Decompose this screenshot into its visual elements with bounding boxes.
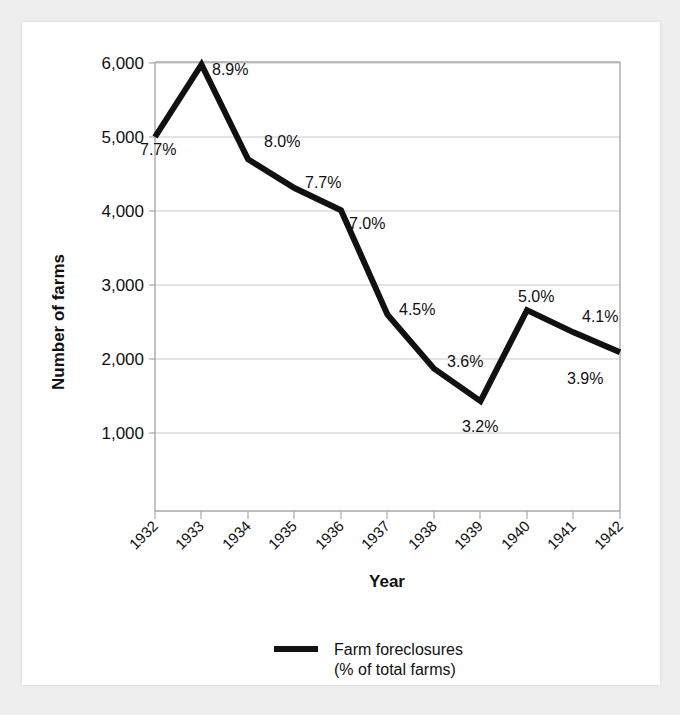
point-label-1933: 8.9%: [212, 61, 248, 78]
page-root: 6,000 5,000 4,000 3,000 2,000 1,000 Numb…: [0, 0, 680, 715]
y-tick-label-4000: 4,000: [101, 202, 144, 221]
y-tick-labels: 6,000 5,000 4,000 3,000 2,000 1,000: [101, 54, 144, 443]
y-tick-label-1000: 1,000: [101, 424, 144, 443]
legend-label-line2: (% of total farms): [334, 661, 456, 678]
x-axis-title: Year: [369, 572, 405, 591]
y-tick-label-5000: 5,000: [101, 128, 144, 147]
y-tick-marks: [149, 63, 155, 433]
point-label-1937: 4.5%: [399, 301, 435, 318]
line-chart: 6,000 5,000 4,000 3,000 2,000 1,000 Numb…: [22, 22, 660, 685]
y-tick-label-6000: 6,000: [101, 54, 144, 73]
y-tick-label-3000: 3,000: [101, 276, 144, 295]
point-label-1942: 3.9%: [567, 370, 603, 387]
point-label-1935: 7.7%: [305, 174, 341, 191]
point-label-1938: 3.6%: [447, 353, 483, 370]
point-label-1940: 5.0%: [518, 288, 554, 305]
point-label-1941: 4.1%: [582, 308, 618, 325]
point-label-1934: 8.0%: [264, 133, 300, 150]
point-label-1939: 3.2%: [462, 418, 498, 435]
y-axis-title: Number of farms: [49, 254, 68, 390]
y-tick-label-2000: 2,000: [101, 350, 144, 369]
chart-legend: Farm foreclosures (% of total farms): [274, 641, 463, 678]
chart-card: 6,000 5,000 4,000 3,000 2,000 1,000 Numb…: [22, 22, 660, 685]
legend-label-line1: Farm foreclosures: [334, 641, 463, 658]
point-label-1932: 7.7%: [140, 141, 176, 158]
point-label-1936: 7.0%: [349, 215, 385, 232]
